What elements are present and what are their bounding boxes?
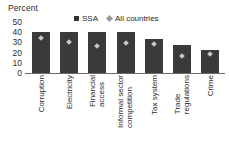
y-axis-title: Percent <box>8 3 38 13</box>
bar-group[interactable] <box>201 22 219 73</box>
x-category-label: Financialaccess <box>88 75 106 107</box>
bar-group[interactable] <box>173 22 191 73</box>
bar-ssa[interactable] <box>88 32 106 73</box>
x-category-label-slot: Informal sectorcompetition <box>111 75 139 145</box>
x-category-label-slot: Crime <box>196 75 224 145</box>
x-category-label-slot: Corruption <box>27 75 55 145</box>
x-category-label: Corruption <box>37 75 46 112</box>
bar-group[interactable] <box>88 22 106 73</box>
plot-area <box>27 22 224 73</box>
y-tick-label: 0 <box>17 69 22 78</box>
bar-chart: Percent SSA All countries 50403020100 Co… <box>0 0 229 145</box>
y-tick-label: 10 <box>13 59 22 68</box>
y-tick-label: 50 <box>13 18 22 27</box>
x-category-label: Crime <box>205 75 214 96</box>
y-axis-tick-labels: 50403020100 <box>0 22 24 73</box>
x-category-label: Tax system <box>149 75 158 115</box>
x-category-label-slot: Financialaccess <box>83 75 111 145</box>
bar-group[interactable] <box>117 22 135 73</box>
x-category-label: Traderegulations <box>173 75 191 114</box>
x-category-label-slot: Traderegulations <box>168 75 196 145</box>
y-tick-label: 40 <box>13 28 22 37</box>
y-tick-label: 20 <box>13 48 22 57</box>
bar-group[interactable] <box>32 22 50 73</box>
x-category-label-slot: Tax system <box>140 75 168 145</box>
square-dark-icon <box>74 16 79 21</box>
bar-ssa[interactable] <box>117 32 135 73</box>
x-category-label-slot: Electricity <box>55 75 83 145</box>
y-tick-label: 30 <box>13 38 22 47</box>
bar-group[interactable] <box>60 22 78 73</box>
bar-group[interactable] <box>145 22 163 73</box>
bar-ssa[interactable] <box>173 45 191 73</box>
x-category-label: Electricity <box>65 75 74 109</box>
bar-ssa[interactable] <box>60 32 78 73</box>
x-category-label: Informal sectorcompetition <box>116 75 134 128</box>
x-axis-category-labels: CorruptionElectricityFinancialaccessInfo… <box>27 75 224 145</box>
diamond-gray-icon <box>106 15 113 22</box>
